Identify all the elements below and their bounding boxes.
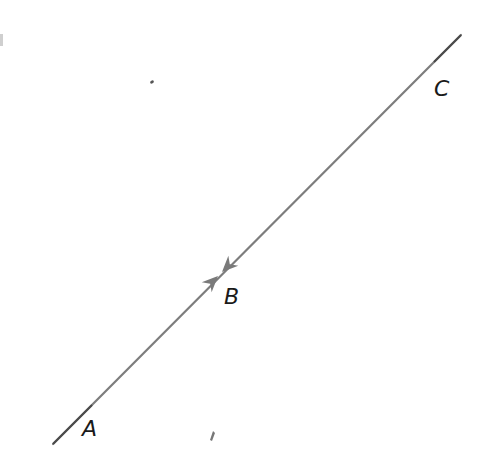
arrowhead-c-to-b-icon <box>217 256 238 277</box>
point-label-c: C <box>434 76 450 101</box>
speck-mark <box>210 431 215 441</box>
speck-mark <box>150 80 155 84</box>
line-end-c <box>434 35 461 62</box>
line-segment-ac <box>53 35 461 444</box>
point-label-b: B <box>224 284 239 309</box>
point-label-a: A <box>80 416 97 441</box>
arrowhead-a-to-b-icon <box>202 271 223 292</box>
line-diagram: A B C <box>0 0 487 449</box>
